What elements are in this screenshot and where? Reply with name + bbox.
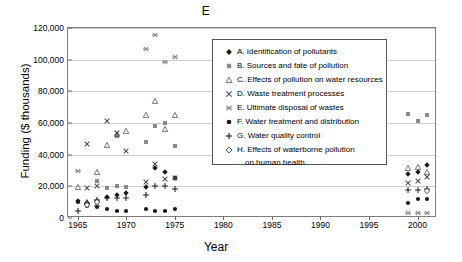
legend-item: D. Waste treatment processes — [213, 87, 386, 101]
y-tick-mark — [68, 28, 72, 29]
y-tick-label: 100,000 — [33, 55, 64, 65]
legend-label-continuation: on human health — [213, 157, 386, 169]
data-point-d — [142, 179, 148, 185]
data-point-b — [153, 123, 158, 128]
data-point-d — [152, 161, 158, 167]
data-point-g — [142, 192, 148, 198]
data-point-g — [414, 187, 420, 193]
legend-marker-icon — [221, 73, 237, 87]
data-point-f — [163, 208, 168, 213]
legend-marker-icon — [221, 143, 237, 157]
data-point-e — [75, 168, 81, 174]
y-tick-label: 80,000 — [38, 86, 64, 96]
x-axis-label: Year — [0, 240, 462, 254]
x-tick-label: 2000 — [408, 220, 427, 230]
y-tick-mark — [68, 123, 72, 124]
data-point-b — [114, 184, 119, 189]
gridline — [68, 28, 435, 29]
legend-marker-icon — [221, 87, 237, 101]
x-tick-label: 1975 — [165, 220, 184, 230]
data-point-b — [405, 111, 410, 116]
data-point-d — [113, 130, 119, 136]
y-tick-mark — [68, 59, 72, 60]
legend-label: G. Water quality control — [237, 129, 320, 143]
data-point-c — [123, 128, 129, 134]
x-tick-label: 1985 — [262, 220, 281, 230]
data-point-h — [94, 199, 100, 205]
data-point-b — [104, 185, 109, 190]
data-point-c — [172, 112, 178, 118]
y-tick-label: 40,000 — [38, 150, 64, 160]
y-tick-mark — [68, 91, 72, 92]
data-point-d — [405, 180, 411, 186]
data-point-f — [153, 209, 158, 214]
data-point-h — [424, 188, 430, 194]
data-point-c — [152, 98, 158, 104]
data-point-d — [162, 176, 168, 182]
data-point-d — [104, 117, 110, 123]
data-point-f — [124, 208, 129, 213]
data-point-g — [162, 183, 168, 189]
legend-label: C. Effects of pollution on water resourc… — [237, 73, 383, 87]
data-point-f — [405, 200, 410, 205]
data-point-b — [143, 140, 148, 145]
legend-item: E. Ultimate disposal of wastes — [213, 101, 386, 115]
legend-marker-icon — [221, 129, 237, 143]
data-point-d — [414, 178, 420, 184]
data-point-b — [415, 118, 420, 123]
data-point-c — [104, 142, 110, 148]
data-point-b — [163, 120, 168, 125]
data-point-e — [172, 54, 178, 60]
y-tick-mark — [68, 186, 72, 187]
data-point-e — [162, 58, 168, 64]
data-point-e — [152, 32, 158, 38]
legend-item: F. Water treatment and distribution — [213, 115, 386, 129]
data-point-b — [124, 185, 129, 190]
data-point-d — [84, 185, 90, 191]
data-point-h — [84, 202, 90, 208]
data-point-b — [172, 144, 177, 149]
y-tick-mark — [68, 218, 72, 219]
chart-figure: E Funding ($ thousands) 020,00040,00060,… — [0, 0, 462, 262]
data-point-e — [414, 210, 420, 216]
legend-label: E. Ultimate disposal of wastes — [237, 101, 344, 115]
data-point-f — [114, 208, 119, 213]
legend-label: D. Waste treatment processes — [237, 87, 344, 101]
x-tick-label: 1990 — [311, 220, 330, 230]
legend-marker-icon — [221, 59, 237, 73]
data-point-c — [142, 112, 148, 118]
legend-item: B. Sources and fate of pollution — [213, 59, 386, 73]
data-point-g — [104, 195, 110, 201]
y-tick-label: 0 — [59, 213, 64, 223]
y-axis-label: Funding ($ thousands) — [19, 36, 31, 206]
data-point-c — [405, 164, 411, 170]
data-point-g — [405, 187, 411, 193]
data-point-a — [405, 171, 411, 177]
data-point-g — [152, 183, 158, 189]
legend-marker-icon — [221, 101, 237, 115]
legend-label: A. Identification of pollutants — [237, 45, 337, 59]
data-point-c — [94, 169, 100, 175]
x-axis-label-text: Year — [204, 240, 228, 254]
data-point-d — [424, 174, 430, 180]
data-point-g — [172, 186, 178, 192]
legend-label: H. Effects of waterborne pollution — [237, 143, 355, 157]
chart-title-text: E — [202, 4, 211, 18]
data-point-c — [414, 163, 420, 169]
x-tick-label: 1965 — [68, 220, 87, 230]
legend-marker-icon — [221, 115, 237, 129]
y-tick-mark — [68, 154, 72, 155]
data-point-b — [425, 112, 430, 117]
chart-legend: A. Identification of pollutantsB. Source… — [212, 39, 387, 165]
data-point-f — [425, 197, 430, 202]
data-point-c — [162, 126, 168, 132]
x-tick-label: 1970 — [117, 220, 136, 230]
legend-label: B. Sources and fate of pollution — [237, 59, 348, 73]
y-tick-label: 120,000 — [33, 23, 64, 33]
chart-title: E — [0, 4, 462, 18]
data-point-c — [75, 183, 81, 189]
data-point-f — [143, 207, 148, 212]
data-point-g — [123, 195, 129, 201]
data-point-d — [94, 183, 100, 189]
data-point-f — [172, 206, 177, 211]
